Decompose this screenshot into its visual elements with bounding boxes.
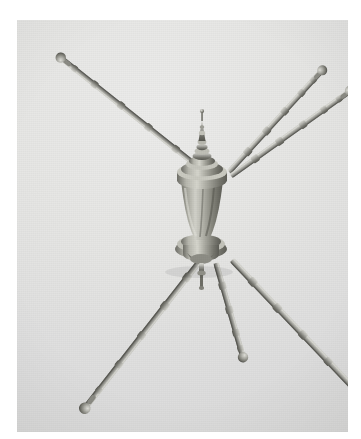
urn-body bbox=[181, 181, 223, 240]
stand-illustration bbox=[17, 20, 348, 432]
leg-lower-right bbox=[228, 256, 348, 428]
leg-foot-ball bbox=[237, 351, 250, 364]
screenshot-root: antique metal telescoping stand with urn… bbox=[0, 0, 361, 439]
photograph bbox=[17, 20, 348, 432]
photo-caption: antique metal telescoping stand with urn… bbox=[0, 0, 1, 1]
arm-upper-left bbox=[53, 50, 205, 174]
leg-lower-left bbox=[77, 253, 208, 416]
finial-spire bbox=[193, 109, 212, 160]
arm-upper-right-outer bbox=[228, 83, 348, 180]
upper-collar-hub bbox=[177, 156, 227, 189]
